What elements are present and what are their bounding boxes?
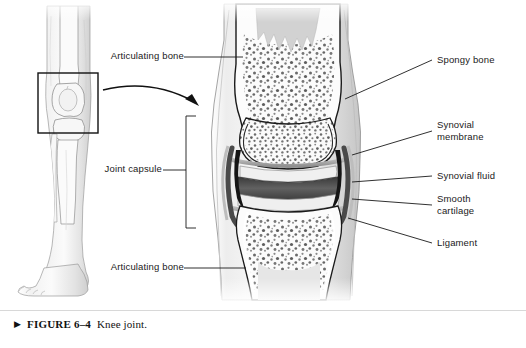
knee-cross-section [210, 0, 366, 308]
caption-triangle-icon: ▶ [14, 320, 21, 329]
figure-number: FIGURE 6–4 [27, 318, 91, 330]
label-smooth-cartilage: Smooth cartilage [437, 193, 474, 216]
label-spongy-bone: Spongy bone [437, 54, 495, 66]
leg-inset-illustration [18, 0, 98, 296]
figure-caption: ▶ FIGURE 6–4 Knee joint. [14, 318, 147, 330]
label-synovial-fluid: Synovial fluid [437, 170, 495, 182]
label-joint-capsule: Joint capsule [98, 163, 162, 175]
femur [235, 4, 342, 169]
caption-divider [0, 310, 526, 311]
magnification-arrow [103, 86, 199, 106]
leader-spongy-bone [345, 60, 432, 99]
leader-synovial-membrane [352, 131, 432, 155]
figure-container: Articulating bone Joint capsule Articula… [0, 0, 526, 348]
leader-synovial-fluid [352, 176, 432, 182]
figure-title: Knee joint. [97, 318, 147, 330]
bracket-joint-capsule-ticks [186, 116, 196, 228]
label-synovial-membrane: Synovial membrane [437, 119, 484, 142]
foot-shape [18, 264, 88, 296]
label-articulating-bone-top: Articulating bone [100, 50, 184, 62]
leader-ligament [348, 218, 432, 243]
leader-smooth-cartilage [352, 199, 432, 205]
label-ligament: Ligament [437, 237, 477, 249]
label-articulating-bone-bottom: Articulating bone [100, 261, 184, 273]
